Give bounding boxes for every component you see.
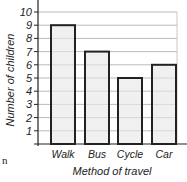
x-axis-label: Method of travel <box>73 165 152 177</box>
bar-chart: 12345678910 WalkBusCycleCar Method of tr… <box>0 0 187 182</box>
y-tick-label: 2 <box>25 112 32 124</box>
bar-bus <box>85 52 109 144</box>
y-tick-label: 4 <box>26 85 32 97</box>
bar-walk <box>51 25 75 144</box>
x-category-label: Bus <box>88 148 107 160</box>
y-axis-label: Number of children <box>4 34 16 127</box>
y-tick-label: 3 <box>26 98 33 110</box>
x-category-label: Walk <box>51 148 75 160</box>
y-tick-labels: 12345678910 <box>20 6 33 137</box>
bars <box>51 25 176 144</box>
y-tick-label: 8 <box>26 32 33 44</box>
x-category-label: Car <box>156 148 173 160</box>
y-tick-label: 10 <box>20 6 33 18</box>
page-fragment-text: n <box>2 154 8 166</box>
y-tick-label: 9 <box>26 19 32 31</box>
bar-cycle <box>118 78 142 144</box>
x-category-labels: WalkBusCycleCar <box>51 148 173 160</box>
y-tick-label: 1 <box>26 125 32 137</box>
y-tick-label: 5 <box>26 72 33 84</box>
x-category-label: Cycle <box>117 148 143 160</box>
y-tick-label: 7 <box>26 46 33 58</box>
y-tick-label: 6 <box>26 59 33 71</box>
